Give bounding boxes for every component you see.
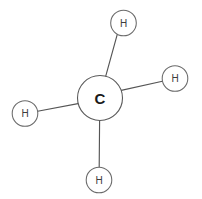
molecule-diagram: H H H H C	[0, 0, 202, 199]
bond-carbon-hydrogen-top	[106, 35, 118, 77]
bond-carbon-hydrogen-left	[38, 104, 78, 112]
atom-label-hydrogen-right: H	[171, 73, 178, 84]
atom-hydrogen-left: H	[12, 101, 38, 127]
atom-carbon: C	[78, 76, 123, 121]
molecule-canvas: H H H H C	[0, 0, 202, 199]
bond-carbon-hydrogen-right	[121, 81, 162, 90]
atom-label-carbon: C	[95, 90, 106, 107]
atom-label-hydrogen-left: H	[21, 108, 28, 119]
atom-hydrogen-right: H	[162, 66, 188, 92]
atom-hydrogen-bottom: H	[86, 167, 112, 193]
atom-label-hydrogen-top: H	[120, 18, 127, 29]
atom-hydrogen-top: H	[111, 10, 137, 36]
atom-label-hydrogen-bottom: H	[95, 175, 102, 186]
